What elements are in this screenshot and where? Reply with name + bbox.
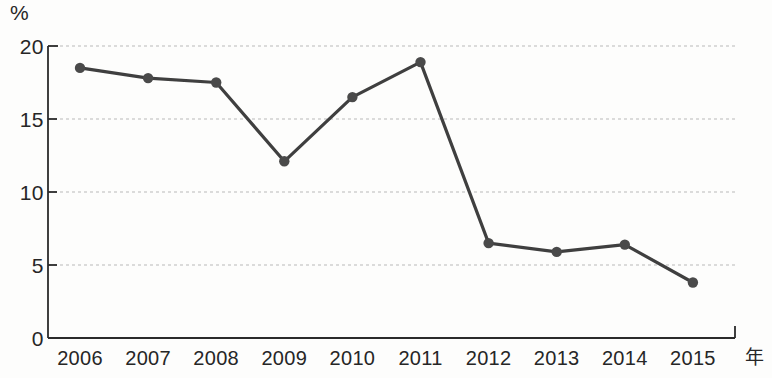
- data-point: [211, 77, 221, 87]
- x-tick-label: 2008: [193, 348, 239, 368]
- data-point: [75, 63, 85, 73]
- data-point: [279, 156, 289, 166]
- y-axis-tick-marks: [48, 119, 57, 265]
- x-tick-label: 2015: [670, 348, 716, 368]
- x-tick-label: 2011: [398, 348, 442, 368]
- data-point: [620, 239, 630, 249]
- data-point: [347, 92, 357, 102]
- x-tick-label: 2013: [534, 348, 580, 368]
- data-point: [688, 277, 698, 287]
- line-chart: % 05101520 20062007200820092010201120122…: [0, 0, 772, 378]
- plot-area: [0, 0, 772, 378]
- data-point: [483, 238, 493, 248]
- x-tick-label: 2012: [466, 348, 512, 368]
- x-tick-label: 2007: [125, 348, 171, 368]
- data-point: [552, 247, 562, 257]
- data-line: [80, 62, 693, 282]
- data-point: [415, 57, 425, 67]
- data-point: [143, 73, 153, 83]
- x-tick-label: 2006: [57, 348, 103, 368]
- x-tick-label: 2009: [261, 348, 307, 368]
- x-tick-label: 2010: [330, 348, 376, 368]
- data-point-markers: [75, 57, 698, 288]
- x-axis-unit-label: 年: [745, 348, 764, 367]
- x-tick-label: 2014: [602, 348, 648, 368]
